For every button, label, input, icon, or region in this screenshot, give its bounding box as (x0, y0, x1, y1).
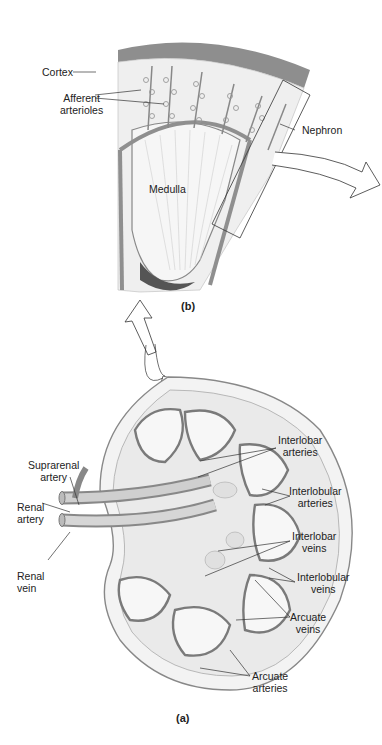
label-renal-artery: Renal artery (17, 501, 44, 525)
zoom-arrow (125, 300, 156, 355)
label-afferent-arterioles: Afferent arterioles (60, 92, 103, 116)
label-interlobar-veins: Interlobar veins (292, 530, 336, 554)
panel-label-b: (b) (181, 300, 195, 312)
label-arcuate-veins: Arcuate veins (290, 611, 326, 635)
label-arcuate-arteries: Arcuate arteries (252, 670, 288, 694)
label-nephron: Nephron (302, 124, 342, 136)
label-interlobular-veins: Interlobular veins (297, 571, 350, 595)
label-medulla: Medulla (149, 183, 186, 195)
label-interlobular-arteries: Interlobular arteries (289, 485, 342, 509)
cortex-medulla-wedge (118, 42, 380, 292)
panel-label-a: (a) (176, 712, 189, 724)
label-cortex: Cortex (42, 66, 73, 78)
label-suprarenal-artery: Suprarenal artery (28, 459, 79, 483)
label-interlobar-arteries: Interlobar arteries (278, 434, 322, 458)
label-renal-vein: Renal vein (17, 570, 44, 594)
